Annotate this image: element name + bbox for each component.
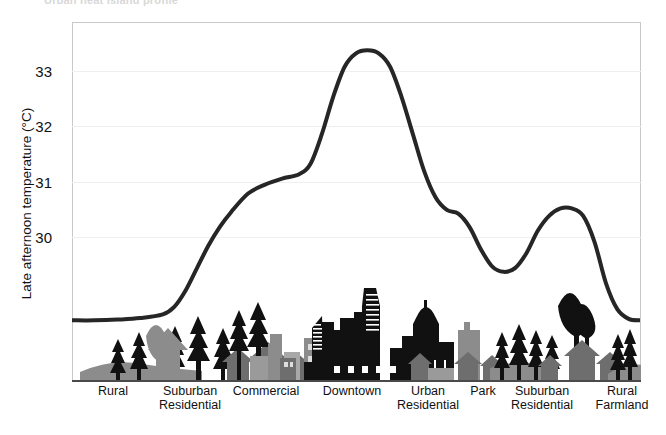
cityscape-silhouette xyxy=(72,272,641,381)
y-tick-33: 33 xyxy=(18,63,52,80)
x-label-urban-residential-line2: Residential xyxy=(397,398,459,412)
chart-title: Urban heat island profile xyxy=(44,0,178,6)
x-axis-line xyxy=(72,380,641,382)
x-label-suburban-residential-2-line1: Suburban xyxy=(511,384,573,398)
x-label-commercial-line1: Commercial xyxy=(233,384,300,398)
x-label-suburban-residential-2: Suburban Residential xyxy=(511,384,573,412)
x-label-rural-farmland: Rural Farmland xyxy=(596,384,649,412)
x-label-suburban-residential-1-line2: Residential xyxy=(159,398,221,412)
downtown-skyline xyxy=(304,288,454,380)
x-label-rural-line1: Rural xyxy=(98,384,128,398)
x-label-suburban-residential-1: Suburban Residential xyxy=(159,384,221,412)
x-label-park-line1: Park xyxy=(470,384,496,398)
x-label-urban-residential-line1: Urban xyxy=(397,384,459,398)
x-label-commercial: Commercial xyxy=(233,384,300,398)
x-label-downtown: Downtown xyxy=(323,384,381,398)
x-label-rural: Rural xyxy=(98,384,128,398)
y-tick-32: 32 xyxy=(18,118,52,135)
x-label-suburban-residential-2-line2: Residential xyxy=(511,398,573,412)
rural-trees-left xyxy=(80,316,233,381)
suburban-houses-right xyxy=(538,293,624,380)
x-label-downtown-line1: Downtown xyxy=(323,384,381,398)
y-tick-30: 30 xyxy=(18,229,52,246)
chart-figure: Urban heat island profile Late afternoon… xyxy=(0,0,666,435)
x-label-park: Park xyxy=(470,384,496,398)
x-axis-labels: Rural Suburban Residential Commercial Do… xyxy=(0,384,666,430)
y-axis-label: Late afternoon temperature (°C) xyxy=(19,74,34,334)
y-tick-31: 31 xyxy=(18,174,52,191)
x-label-rural-farmland-line2: Farmland xyxy=(596,398,649,412)
x-label-urban-residential: Urban Residential xyxy=(397,384,459,412)
x-label-rural-farmland-line1: Rural xyxy=(596,384,649,398)
x-label-suburban-residential-1-line1: Suburban xyxy=(159,384,221,398)
